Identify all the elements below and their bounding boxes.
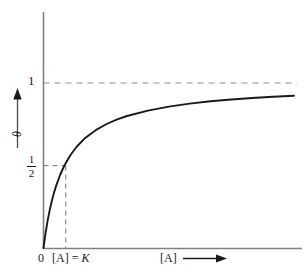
- x-axis-title-text: [A]: [160, 252, 177, 264]
- y-axis-title: θ: [11, 114, 23, 154]
- y-tick-label-one: 1: [28, 74, 35, 87]
- x-axis-title: [A]: [160, 252, 177, 264]
- x-tick-k-symbol: K: [81, 251, 89, 265]
- y-tick-half-denominator: 2: [27, 168, 36, 180]
- saturation-curve: [44, 96, 295, 248]
- x-tick-k-prefix: [A] =: [52, 251, 81, 265]
- plot-canvas: [0, 0, 304, 276]
- y-tick-half-numerator: 1: [27, 154, 36, 166]
- x-tick-label-k: [A] = K: [52, 252, 89, 264]
- x-tick-label-zero: 0: [38, 252, 44, 264]
- saturation-curve-figure: 1 1 2 θ 0 [A] = K [A]: [0, 0, 304, 276]
- y-tick-label-half: 1 2: [27, 154, 36, 179]
- arrow-right-icon: [183, 254, 227, 262]
